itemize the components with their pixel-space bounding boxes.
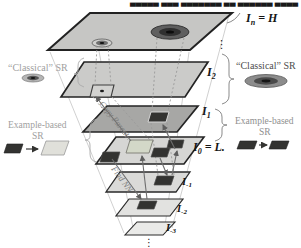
vertical-ellipsis-bottom: ⋮ [144, 237, 154, 248]
right-example-sr-label-1: Example-based [235, 116, 294, 126]
vertical-ellipsis-top: ⋮ [216, 38, 227, 51]
left-example-sr-label-2: SR [32, 131, 44, 141]
left-example-dark-patch-icon [4, 144, 23, 153]
light-patch-on-I0 [126, 140, 153, 153]
label-In-rest: = H [255, 11, 278, 25]
right-classical-blob-icon [245, 75, 287, 88]
patch-on-Im2 [137, 201, 157, 209]
patch-on-I1 [148, 112, 169, 122]
left-classical-sr-label: “Classical” SR [8, 62, 68, 73]
label-I2-sub: 2 [211, 72, 216, 81]
dark-patch-right-on-I0 [167, 140, 184, 148]
dark-patch-center-on-I0 [151, 148, 170, 157]
right-example-dark-patch-icon-2 [269, 141, 289, 149]
single-image-sr-pyramid-figure: ▄▄▄▄▄ ▄▄▄ ▄▄▄▄▄▄▄ ▄▄ ▄▄▄▄▄▄ ▄▄▄▄ [0, 0, 301, 248]
right-classical-sr-label: “Classical” SR [236, 60, 296, 71]
patch-on-Im1 [154, 176, 174, 185]
label-Im2-sub: -2 [181, 208, 187, 216]
small-blob-on-H [92, 39, 112, 47]
label-Im3-sub: -3 [170, 227, 176, 235]
right-example-sr-label-2: SR [259, 127, 271, 137]
left-example-sr-label-1: Example-based [8, 120, 67, 130]
large-blob-on-H [151, 25, 189, 39]
label-I1-sub: 1 [207, 111, 211, 120]
left-classical-blob-icon [22, 74, 44, 82]
right-example-dark-patch-icon-1 [237, 141, 257, 149]
plane-I2 [61, 62, 208, 97]
label-In-H: In = H [245, 11, 278, 27]
clipped-header-text: ▄▄▄▄▄ ▄▄▄ ▄▄▄▄▄▄▄ ▄▄ ▄▄▄▄▄▄ ▄▄▄▄ [129, 0, 299, 7]
left-example-light-patch-icon [41, 141, 69, 155]
label-Im1-sub: -1 [186, 181, 192, 189]
label-I0-rest: = L. [202, 140, 225, 154]
patch-on-I2 [90, 85, 114, 97]
dark-patch-left-on-I0 [100, 152, 120, 162]
label-I0-L: I0 = L. [192, 140, 225, 156]
